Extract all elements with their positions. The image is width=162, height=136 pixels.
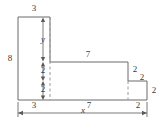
label-overall-width: x — [77, 106, 89, 115]
label-inner-seg-upper: 2 — [37, 66, 49, 75]
label-inner-y: y — [37, 35, 49, 44]
label-top-width: 3 — [28, 4, 40, 13]
label-bottom-right: 2 — [132, 101, 144, 110]
label-right-height: 2 — [149, 86, 159, 95]
arrowhead-seg-lower-bottom — [41, 96, 45, 101]
geometry-figure: 3 8 y 2 2 7 2 2 2 3 7 2 x — [0, 0, 162, 136]
label-bottom-left: 3 — [28, 101, 40, 110]
label-left-height: 8 — [5, 54, 15, 63]
arrowhead-seg-upper-bottom — [41, 77, 45, 82]
label-inner-seg-lower: 2 — [37, 85, 49, 94]
arrowhead-y-bottom — [41, 57, 45, 62]
arrowhead-x-left — [18, 111, 23, 115]
arrowhead-x-right — [142, 111, 147, 115]
arrowhead-y-top — [41, 18, 45, 23]
label-upper-run: 7 — [82, 50, 94, 59]
label-step-run: 2 — [137, 73, 147, 82]
